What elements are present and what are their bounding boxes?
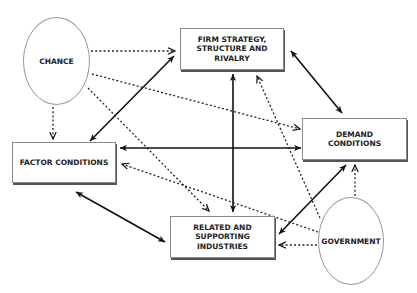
node-factor-conditions: FACTOR CONDITIONS bbox=[12, 142, 116, 183]
node-related-industries: RELATED AND SUPPORTING INDUSTRIES bbox=[170, 216, 275, 258]
edge-firm-demand bbox=[291, 51, 342, 113]
node-demand-conditions-label: DEMAND CONDITIONS bbox=[328, 130, 381, 149]
node-government: GOVERNMENT bbox=[318, 197, 384, 285]
node-chance-label: CHANCE bbox=[39, 57, 74, 66]
edge-factor-firm bbox=[90, 56, 174, 141]
node-firm-strategy-label: FIRM STRATEGY, STRUCTURE AND RIVALRY bbox=[197, 35, 268, 64]
node-demand-conditions: DEMAND CONDITIONS bbox=[302, 118, 407, 160]
node-chance: CHANCE bbox=[23, 17, 90, 105]
node-government-label: GOVERNMENT bbox=[321, 237, 380, 246]
edge-factor-related bbox=[76, 192, 165, 242]
node-factor-conditions-label: FACTOR CONDITIONS bbox=[20, 158, 109, 168]
node-firm-strategy: FIRM STRATEGY, STRUCTURE AND RIVALRY bbox=[180, 28, 284, 70]
node-related-industries-label: RELATED AND SUPPORTING INDUSTRIES bbox=[193, 223, 251, 252]
